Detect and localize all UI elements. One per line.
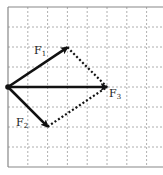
label-f1: F1 xyxy=(34,44,46,58)
origin-point xyxy=(5,84,11,90)
label-f3: F3 xyxy=(109,87,121,101)
label-f2: F2 xyxy=(16,116,28,130)
force-vectors xyxy=(8,47,107,126)
force-diagram: F1 F2 F3 xyxy=(0,0,163,175)
